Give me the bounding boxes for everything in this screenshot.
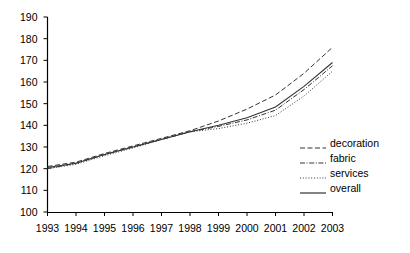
y-axis-tick-label: 130 bbox=[8, 142, 38, 153]
legend-swatch-decoration bbox=[300, 139, 326, 149]
y-axis-tick-label: 110 bbox=[8, 185, 38, 196]
plot-area bbox=[0, 0, 410, 253]
series-line-overall bbox=[48, 63, 333, 168]
legend-item-services[interactable]: services bbox=[300, 166, 406, 181]
legend-label: fabric bbox=[330, 153, 356, 164]
legend-label: services bbox=[330, 168, 369, 179]
legend-swatch-overall bbox=[300, 184, 326, 194]
legend-label: overall bbox=[330, 183, 361, 194]
series-line-services bbox=[48, 71, 333, 169]
y-axis-tick-label: 160 bbox=[8, 77, 38, 88]
legend-swatch-fabric bbox=[300, 154, 326, 164]
x-axis-tick-label: 2003 bbox=[316, 223, 350, 234]
legend-item-overall[interactable]: overall bbox=[300, 181, 406, 196]
y-axis-tick-label: 150 bbox=[8, 99, 38, 110]
data-series-group bbox=[48, 47, 333, 168]
y-axis-tick-label: 180 bbox=[8, 34, 38, 45]
y-axis-tick-label: 120 bbox=[8, 164, 38, 175]
legend-swatch-services bbox=[300, 169, 326, 179]
line-chart: 100110120130140150160170180190 199319941… bbox=[0, 0, 410, 253]
legend-label: decoration bbox=[330, 138, 379, 149]
y-axis-tick-label: 170 bbox=[8, 55, 38, 66]
series-line-decoration bbox=[48, 47, 333, 166]
chart-legend: decorationfabricservicesoverall bbox=[300, 136, 406, 196]
y-axis-tick-label: 100 bbox=[8, 207, 38, 218]
series-line-fabric bbox=[48, 66, 333, 169]
y-axis-tick-label: 190 bbox=[8, 12, 38, 23]
y-axis-tick-label: 140 bbox=[8, 120, 38, 131]
legend-item-decoration[interactable]: decoration bbox=[300, 136, 406, 151]
legend-item-fabric[interactable]: fabric bbox=[300, 151, 406, 166]
